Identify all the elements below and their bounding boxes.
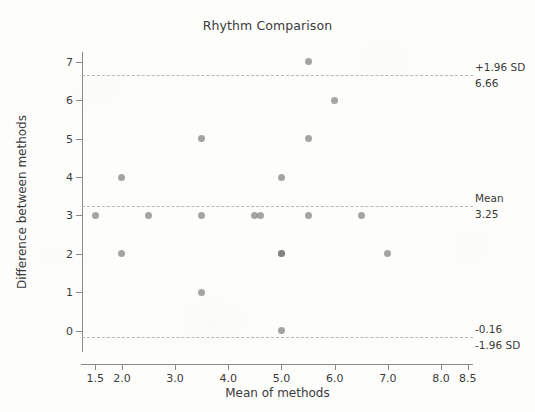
x-tick-label: 6.0	[326, 372, 344, 385]
data-point	[305, 212, 312, 219]
reference-label-upper-loa-below: 6.66	[475, 77, 498, 89]
y-axis-title-label: Difference between methods	[15, 115, 29, 289]
y-tick-label: 7	[66, 55, 73, 68]
data-point	[278, 327, 285, 334]
y-tick-mark	[76, 100, 82, 101]
reference-line-mean	[82, 206, 473, 207]
y-tick-mark	[76, 177, 82, 178]
data-point	[384, 250, 391, 257]
data-point	[198, 212, 205, 219]
x-tick-mark	[441, 365, 442, 370]
x-axis-title: Mean of methods	[82, 386, 473, 400]
data-point	[198, 135, 205, 142]
y-tick-mark	[76, 62, 82, 63]
x-tick-mark	[281, 365, 282, 370]
x-axis-line	[81, 364, 473, 365]
data-point	[118, 174, 125, 181]
bland-altman-figure: Rhythm Comparison Difference between met…	[0, 0, 535, 412]
y-axis-line	[82, 52, 83, 352]
data-point	[305, 135, 312, 142]
x-tick-label: 7.0	[379, 372, 397, 385]
data-point	[278, 250, 285, 257]
plot-area: 01234567 1.52.03.04.05.06.07.08.08.5 +1.…	[82, 52, 473, 352]
data-point	[358, 212, 365, 219]
reference-label-mean-below: 3.25	[475, 208, 498, 220]
y-tick-mark	[76, 292, 82, 293]
y-axis-title: Difference between methods	[14, 52, 30, 352]
reference-label-lower-loa-above: -0.16	[475, 323, 502, 335]
x-tick-label: 8.0	[432, 372, 450, 385]
data-point	[92, 212, 99, 219]
x-tick-label: 5.0	[273, 372, 291, 385]
x-tick-mark	[95, 365, 96, 370]
y-tick-label: 1	[66, 286, 73, 299]
y-tick-mark	[76, 254, 82, 255]
x-tick-mark	[388, 365, 389, 370]
y-tick-label: 6	[66, 94, 73, 107]
y-tick-label: 3	[66, 209, 73, 222]
data-point	[257, 212, 264, 219]
x-tick-mark	[228, 365, 229, 370]
reference-line-lower-loa	[82, 337, 473, 338]
data-point	[198, 289, 205, 296]
data-point	[278, 174, 285, 181]
y-tick-label: 5	[66, 132, 73, 145]
reference-label-upper-loa-above: +1.96 SD	[475, 61, 525, 73]
y-tick-label: 2	[66, 247, 73, 260]
x-tick-label: 2.0	[113, 372, 131, 385]
y-tick-label: 4	[66, 171, 73, 184]
data-point	[331, 97, 338, 104]
data-point	[118, 250, 125, 257]
x-tick-label: 3.0	[166, 372, 184, 385]
reference-label-mean-above: Mean	[475, 192, 504, 204]
chart-title: Rhythm Comparison	[0, 18, 535, 33]
reference-label-lower-loa-below: -1.96 SD	[475, 339, 520, 351]
y-tick-mark	[76, 139, 82, 140]
data-point	[145, 212, 152, 219]
x-tick-mark	[468, 365, 469, 370]
y-tick-mark	[76, 215, 82, 216]
x-tick-label: 1.5	[87, 372, 105, 385]
reference-line-upper-loa	[82, 75, 473, 76]
x-tick-mark	[335, 365, 336, 370]
y-tick-mark	[76, 331, 82, 332]
x-tick-mark	[122, 365, 123, 370]
x-tick-label: 8.5	[459, 372, 477, 385]
y-tick-label: 0	[66, 324, 73, 337]
x-tick-label: 4.0	[220, 372, 238, 385]
data-point	[305, 58, 312, 65]
x-tick-mark	[175, 365, 176, 370]
